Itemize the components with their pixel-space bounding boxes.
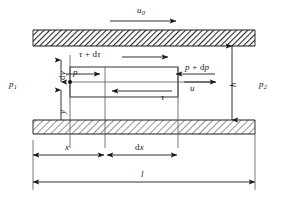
label-tau: τ [161,93,164,102]
label-h: h [229,82,238,87]
label-y: y [58,110,67,114]
top-wall [33,30,255,46]
reference-point-marker [68,80,72,84]
label-l: l [141,170,144,179]
label-p2: p2 [259,80,267,89]
label-p-plus-dp: p + dp [185,63,209,72]
bottom-wall [33,120,255,134]
flow-diagram-figure: u0 τ + dτ p p + dp τ u dy y h p1 p2 x dx… [0,0,287,198]
label-dx: dx [135,143,144,152]
label-x: x [65,143,69,152]
label-p1: p1 [9,80,17,89]
label-u: u [190,84,195,93]
label-dy: dy [58,71,67,80]
label-tau-plus-dtau: τ + dτ [79,50,101,59]
label-p: p [73,68,78,77]
label-u0: u0 [137,6,145,15]
